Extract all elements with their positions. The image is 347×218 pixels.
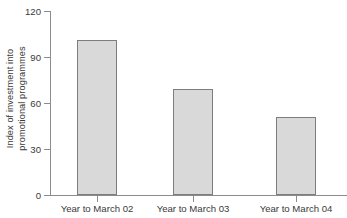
y-tick-label: 30 bbox=[14, 144, 41, 155]
y-tick-label: 90 bbox=[14, 52, 41, 63]
x-tick-mark bbox=[296, 196, 297, 202]
bar bbox=[173, 89, 213, 195]
y-tick-label: 0 bbox=[14, 190, 41, 201]
x-axis-line bbox=[50, 195, 347, 196]
y-tick-mark bbox=[44, 103, 50, 104]
y-tick-mark bbox=[44, 57, 50, 58]
bar bbox=[276, 117, 316, 195]
bar-chart: Index of investment into promotional pro… bbox=[0, 0, 347, 218]
x-tick-mark bbox=[97, 196, 98, 202]
x-tick-label: Year to March 04 bbox=[260, 203, 333, 214]
x-tick-mark bbox=[193, 196, 194, 202]
y-tick-label: 120 bbox=[14, 6, 41, 17]
y-tick-label: 60 bbox=[14, 98, 41, 109]
bar bbox=[77, 40, 117, 195]
y-tick-mark bbox=[44, 149, 50, 150]
y-tick-mark bbox=[44, 11, 50, 12]
y-axis-line bbox=[50, 11, 51, 196]
y-tick-mark bbox=[44, 195, 50, 196]
x-tick-label: Year to March 02 bbox=[61, 203, 134, 214]
x-tick-label: Year to March 03 bbox=[157, 203, 230, 214]
